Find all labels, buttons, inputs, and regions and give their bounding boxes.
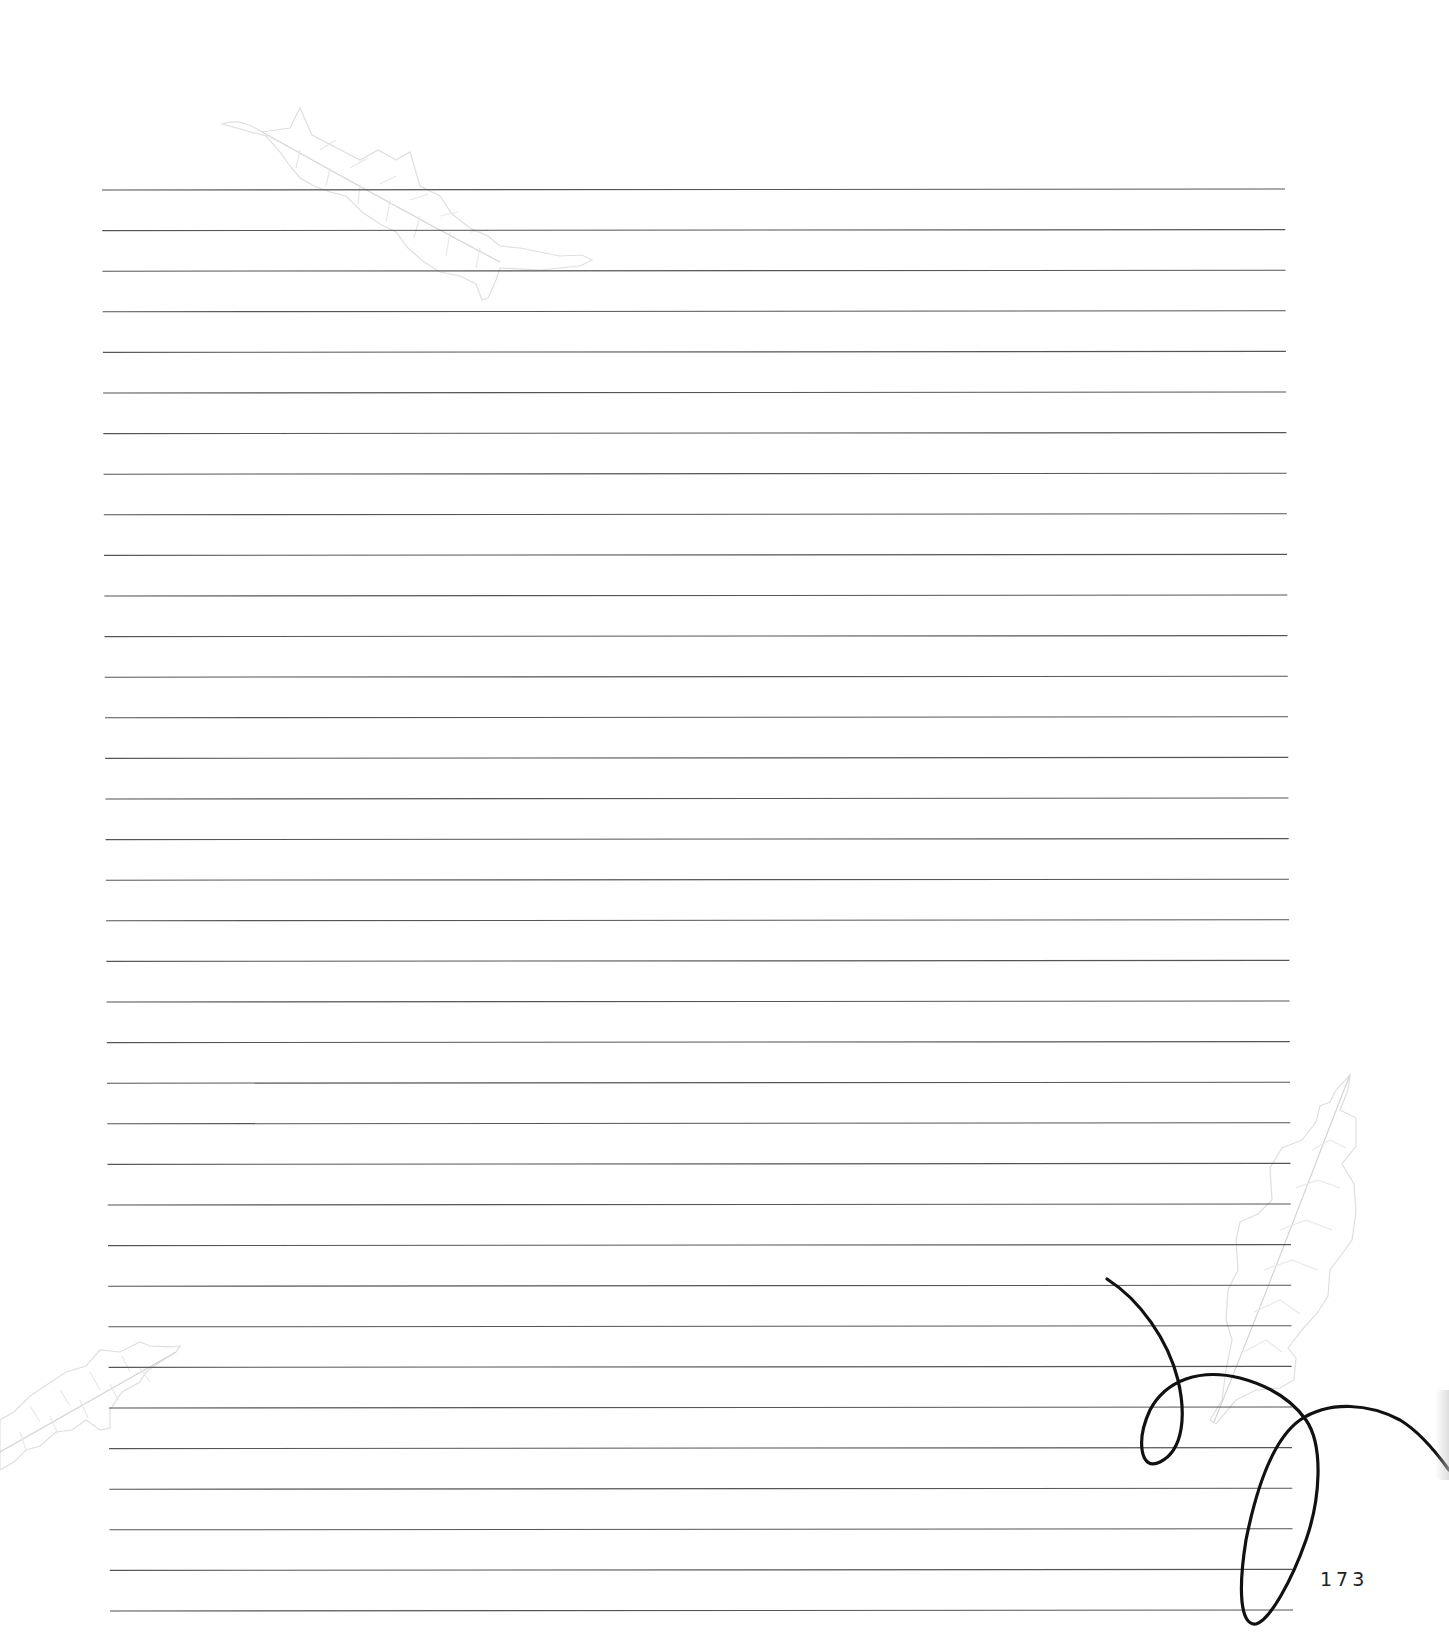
ruled-line xyxy=(103,392,1286,393)
ruled-line xyxy=(105,636,1288,637)
ruled-line xyxy=(107,1082,1290,1083)
ruled-line xyxy=(108,1204,1291,1205)
ruled-line xyxy=(105,717,1288,718)
ruled-line xyxy=(106,839,1289,840)
ruled-line xyxy=(107,1001,1290,1002)
page-number: 173 xyxy=(1320,1568,1368,1590)
ruled-line xyxy=(105,757,1288,758)
ruled-line xyxy=(103,351,1286,352)
ruled-line xyxy=(104,514,1287,515)
ruled-line xyxy=(106,920,1289,921)
ruled-line xyxy=(103,433,1286,434)
ruled-line xyxy=(108,1245,1291,1246)
ruled-line xyxy=(109,1448,1292,1449)
ruled-line xyxy=(103,311,1286,312)
ruled-line xyxy=(105,798,1288,799)
ruled-line xyxy=(108,1285,1291,1286)
ruled-line xyxy=(106,960,1289,961)
ruled-line xyxy=(104,595,1287,596)
ruled-line xyxy=(106,879,1289,880)
ruled-line xyxy=(110,1529,1293,1530)
ruled-line xyxy=(110,1610,1293,1611)
ruled-line xyxy=(109,1488,1292,1489)
ruled-line xyxy=(107,1123,1290,1124)
ruled-line xyxy=(107,1163,1290,1164)
ruled-line xyxy=(109,1407,1292,1408)
ruled-line xyxy=(110,1569,1293,1570)
ruled-line xyxy=(105,676,1288,677)
ruled-line xyxy=(108,1326,1291,1327)
ruled-line xyxy=(107,1042,1290,1043)
ruled-line xyxy=(109,1366,1292,1367)
ruled-line xyxy=(102,230,1285,231)
ruled-lines xyxy=(0,0,1449,1652)
ruled-line xyxy=(104,473,1287,474)
notebook-page: 173 xyxy=(0,0,1449,1652)
ruled-line xyxy=(102,270,1285,271)
page-edge-shadow xyxy=(1435,1390,1449,1480)
ruled-line xyxy=(104,554,1287,555)
ruled-line xyxy=(102,189,1285,190)
